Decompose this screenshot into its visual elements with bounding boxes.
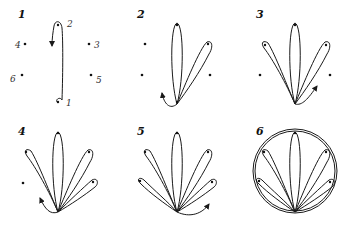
point-dot xyxy=(88,151,90,153)
point-1-dot xyxy=(57,101,59,103)
point-dot xyxy=(144,43,147,46)
point-dot xyxy=(92,181,94,183)
point-dot xyxy=(329,74,332,77)
point-dot xyxy=(258,180,260,182)
outer-circle xyxy=(253,129,337,213)
panel-4: 4 xyxy=(18,125,97,213)
petal-top xyxy=(172,132,183,212)
point-dot xyxy=(325,151,327,153)
point-dot xyxy=(207,43,209,45)
point-4-dot xyxy=(24,43,27,46)
point-dot xyxy=(176,132,178,134)
panel-3: 3 xyxy=(256,8,331,104)
step-number: 2 xyxy=(136,8,145,21)
point-dot xyxy=(207,151,209,153)
panel-5: 5 xyxy=(137,125,216,215)
point-label-3: 3 xyxy=(94,40,100,50)
point-dot xyxy=(263,151,265,153)
point-dot xyxy=(57,132,59,134)
point-dot xyxy=(209,74,212,77)
point-dot xyxy=(176,24,178,26)
point-dot xyxy=(325,44,327,46)
vertical-loop xyxy=(52,22,63,103)
petal-lower-left xyxy=(256,178,295,212)
point-dot xyxy=(25,151,27,153)
pivot-dot xyxy=(176,101,178,103)
point-dot xyxy=(141,74,144,77)
point-2-dot xyxy=(57,24,59,26)
point-dot xyxy=(329,181,331,183)
point-dot xyxy=(22,182,25,185)
step-number: 6 xyxy=(256,125,264,138)
petal-top xyxy=(290,132,301,212)
point-3-dot xyxy=(88,43,91,46)
point-dot xyxy=(144,151,146,153)
petal-lower-left xyxy=(138,178,177,212)
point-label-4: 4 xyxy=(14,40,21,50)
step-number: 1 xyxy=(18,8,26,21)
point-label-6: 6 xyxy=(10,74,16,84)
step-number: 3 xyxy=(256,8,264,21)
point-dot xyxy=(139,180,141,182)
petal-top xyxy=(172,23,183,104)
point-5-dot xyxy=(90,74,93,77)
inner-circle xyxy=(255,131,335,211)
point-dot xyxy=(211,181,213,183)
petal-top xyxy=(53,132,64,212)
point-label-5: 5 xyxy=(96,75,102,85)
point-label-1: 1 xyxy=(66,98,72,108)
step-number: 5 xyxy=(137,125,145,138)
panel-1: 1 2 1 3 4 5 6 xyxy=(10,8,102,108)
point-6-dot xyxy=(21,74,24,77)
panel-6: 6 xyxy=(253,125,337,213)
panel-2: 2 xyxy=(136,8,212,106)
point-dot xyxy=(264,44,266,46)
point-dot xyxy=(294,24,296,26)
point-dot xyxy=(259,74,262,77)
diagram-canvas: 1 2 1 3 4 5 6 2 3 xyxy=(0,0,350,234)
step-number: 4 xyxy=(18,125,26,138)
point-dot xyxy=(294,132,296,134)
point-label-2: 2 xyxy=(66,19,73,29)
petal-top xyxy=(290,23,301,104)
